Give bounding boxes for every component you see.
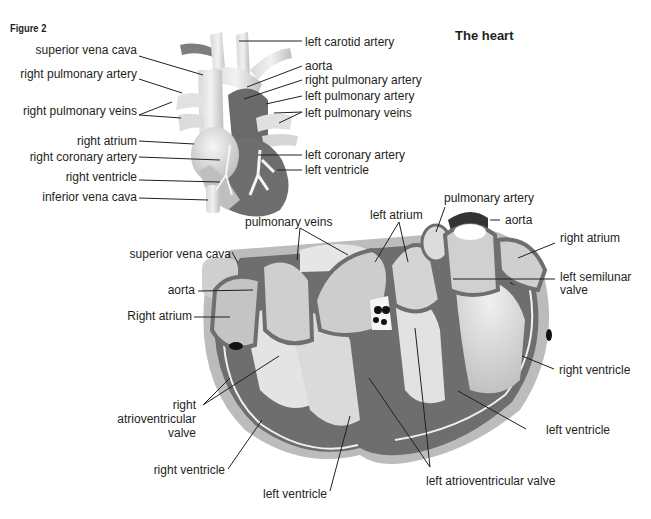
label-left-semilunar-valve-line2: valve	[560, 283, 588, 297]
label-superior-vena-cava: superior vena cava	[36, 43, 137, 57]
label-left-ventricle-bottom: left ventricle	[263, 487, 327, 501]
label-inferior-vena-cava: inferior vena cava	[42, 190, 137, 204]
label-aorta-left: aorta	[168, 283, 195, 297]
label-right-ventricle-section-left: right ventricle	[154, 463, 225, 477]
external-heart	[176, 32, 298, 217]
label-right-ventricle-section-right: right ventricle	[559, 363, 630, 377]
label-superior-vena-cava-section: superior vena cava	[130, 247, 231, 261]
label-right-av-valve-line3: valve	[168, 426, 196, 440]
label-left-carotid-artery: left carotid artery	[305, 35, 394, 49]
section-heart	[202, 212, 552, 464]
label-left-ventricle: left ventricle	[305, 163, 369, 177]
label-aorta-top: aorta	[505, 213, 532, 227]
label-left-coronary-artery: left coronary artery	[305, 148, 405, 162]
label-right-atrium-right: right atrium	[560, 231, 620, 245]
label-right-pulmonary-artery-r: right pulmonary artery	[305, 73, 422, 87]
label-right-av-valve-line1: right	[173, 398, 196, 412]
label-right-atrium: right atrium	[77, 134, 137, 148]
label-right-av-valve-line2: atrioventricular	[117, 412, 196, 426]
label-right-pulmonary-veins: right pulmonary veins	[23, 104, 137, 118]
label-pulmonary-veins: pulmonary veins	[245, 215, 332, 229]
label-right-atrium-left: Right atrium	[127, 309, 192, 323]
label-left-atrium: left atrium	[370, 208, 423, 222]
label-left-pulmonary-artery: left pulmonary artery	[305, 89, 414, 103]
label-right-pulmonary-artery: right pulmonary artery	[20, 67, 137, 81]
label-aorta: aorta	[305, 59, 332, 73]
label-right-ventricle: right ventricle	[66, 170, 137, 184]
label-left-pulmonary-veins: left pulmonary veins	[305, 106, 412, 120]
label-pulmonary-artery: pulmonary artery	[444, 191, 534, 205]
label-right-coronary-artery: right coronary artery	[30, 150, 137, 164]
label-left-ventricle-right: left ventricle	[546, 423, 610, 437]
label-left-atrioventricular-valve: left atrioventricular valve	[426, 474, 555, 488]
label-left-semilunar-valve-line1: left semilunar	[560, 270, 631, 284]
